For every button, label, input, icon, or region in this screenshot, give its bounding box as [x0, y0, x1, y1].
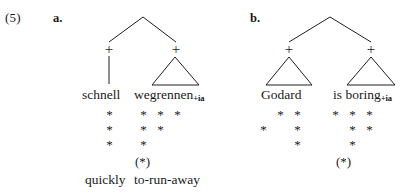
tree-b-left-triangle: [266, 57, 312, 85]
grid-star: *: [101, 137, 118, 152]
grid-star: *: [152, 122, 169, 137]
panel-letter-b: b.: [250, 11, 260, 26]
grid-star: *: [327, 107, 344, 122]
grid-row: ***: [255, 107, 306, 122]
word-text: schnell: [82, 87, 120, 102]
tree-a-right-triangle: [152, 57, 199, 85]
grid-row: ***: [327, 107, 378, 122]
paren-star-is-boring: (*): [336, 155, 351, 168]
grid-star: *: [344, 122, 361, 137]
grid-star: *: [255, 122, 272, 137]
gloss-to-run-away: to-run-away: [134, 173, 200, 187]
grid-row: *: [135, 137, 186, 152]
grid-star: *: [101, 122, 118, 137]
tree-a-apex-branches: [109, 17, 176, 42]
example-figure: (5) a. b. + + schnell wegrennen+ia: [0, 0, 406, 195]
tree-b-apex-branches: [289, 17, 371, 42]
node-plus-b-right: +: [364, 42, 378, 57]
grid-star: *: [135, 137, 152, 152]
grid-star: *: [272, 107, 289, 122]
terminal-word-is-boring: is boring+ia: [333, 88, 392, 103]
grid-star: *: [169, 107, 186, 122]
grid-star: *: [344, 137, 361, 152]
paren-star-wegrennen: (*): [135, 155, 150, 168]
grid-star: *: [101, 107, 118, 122]
word-text: wegrennen: [134, 87, 193, 102]
grid-row: ***: [135, 107, 186, 122]
example-number: (5): [5, 10, 21, 26]
grid-row: ***: [327, 122, 378, 137]
grid-row: **: [327, 137, 378, 152]
grid-star: *: [289, 137, 306, 152]
grid-row: *: [101, 107, 118, 122]
grid-star: *: [135, 122, 152, 137]
terminal-word-schnell: schnell: [82, 88, 120, 103]
grid-wegrennen: *** ** *: [135, 107, 186, 152]
tree-b-right-triangle: [347, 57, 395, 85]
terminal-word-godard: Godard: [261, 88, 302, 103]
panel-letter-a: a.: [53, 11, 62, 26]
node-plus-a-right: +: [169, 42, 183, 57]
grid-star: *: [289, 122, 306, 137]
node-plus-b-left: +: [282, 42, 296, 57]
grid-star: *: [344, 107, 361, 122]
gloss-quickly: quickly: [85, 173, 126, 187]
word-subscript: +ia: [381, 93, 392, 103]
grid-row: ***: [255, 137, 306, 152]
grid-godard: *** *** ***: [255, 107, 306, 152]
grid-star: *: [135, 107, 152, 122]
grid-row: ***: [255, 122, 306, 137]
grid-row: **: [135, 122, 186, 137]
grid-star: *: [152, 107, 169, 122]
word-subscript: +ia: [193, 93, 204, 103]
grid-star: *: [361, 122, 378, 137]
grid-star: *: [289, 107, 306, 122]
grid-star: *: [361, 107, 378, 122]
word-text: Godard: [261, 87, 302, 102]
terminal-word-wegrennen: wegrennen+ia: [134, 88, 204, 103]
grid-schnell: * * *: [101, 107, 118, 152]
grid-row: *: [101, 137, 118, 152]
grid-is-boring: *** *** **: [327, 107, 378, 152]
word-text: is boring: [333, 87, 381, 102]
grid-row: *: [101, 122, 118, 137]
node-plus-a-left: +: [102, 42, 116, 57]
